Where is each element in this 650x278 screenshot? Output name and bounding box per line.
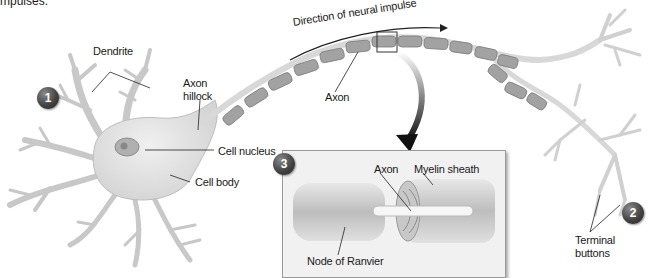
myelin-inset: Axon Myelin sheath Node of Ranvier bbox=[282, 150, 506, 278]
axon-terminals bbox=[545, 10, 640, 215]
badge-2: 2 bbox=[622, 202, 644, 224]
myelin-segments bbox=[221, 36, 548, 127]
label-axon-hillock-2: hillock bbox=[183, 90, 212, 102]
label-myelin-sheath: Myelin sheath bbox=[414, 163, 479, 175]
badge-1: 1 bbox=[37, 87, 59, 109]
label-inset-axon: Axon bbox=[374, 163, 398, 175]
label-axon: Axon bbox=[325, 91, 349, 103]
label-cell-body: Cell body bbox=[195, 176, 239, 188]
label-dendrite: Dendrite bbox=[93, 45, 133, 57]
label-terminal-buttons-1: Terminal bbox=[575, 234, 615, 246]
label-node-of-ranvier: Node of Ranvier bbox=[307, 255, 384, 267]
label-axon-hillock-1: Axon bbox=[183, 77, 207, 89]
zoom-arrow bbox=[398, 52, 422, 140]
badge-3: 3 bbox=[273, 153, 295, 175]
label-terminal-buttons-2: buttons bbox=[575, 247, 610, 259]
label-cell-nucleus: Cell nucleus bbox=[218, 145, 276, 157]
